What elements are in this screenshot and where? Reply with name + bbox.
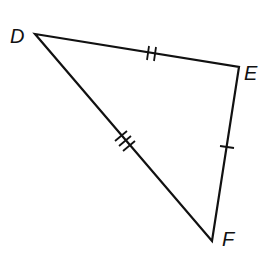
vertex-label-f: F: [222, 228, 236, 250]
side-ef-tick-mark: [220, 146, 234, 148]
triangle-def: [35, 34, 239, 241]
vertex-label-e: E: [244, 62, 258, 84]
triangle-diagram: D E F: [0, 0, 272, 264]
vertex-label-d: D: [10, 25, 24, 47]
